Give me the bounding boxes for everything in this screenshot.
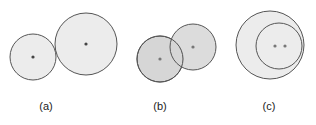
center-dot — [273, 44, 276, 47]
panel-label-a: (a) — [39, 100, 52, 112]
center-dot — [191, 45, 194, 48]
center-dot — [84, 42, 87, 45]
panel-label-c: (c) — [263, 100, 276, 112]
panel-a — [10, 13, 117, 80]
panel-c — [236, 11, 304, 79]
center-dot — [31, 55, 34, 58]
circle-inner — [256, 23, 302, 69]
center-dot — [283, 44, 286, 47]
center-dot — [158, 57, 161, 60]
panel-label-b: (b) — [153, 100, 166, 112]
panel-b — [137, 24, 216, 82]
